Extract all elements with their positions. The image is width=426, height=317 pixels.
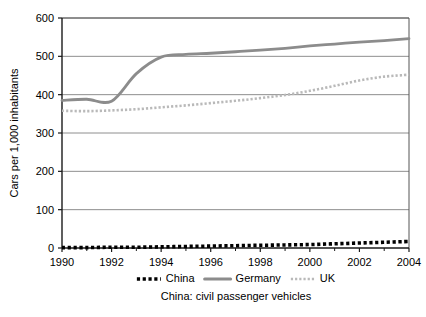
legend-label-germany: Germany xyxy=(236,272,282,284)
y-tick-label-100: 100 xyxy=(36,204,54,216)
legend-label-uk: UK xyxy=(320,272,336,284)
x-tick-label-1998: 1998 xyxy=(248,256,272,268)
y-tick-label-400: 400 xyxy=(36,89,54,101)
y-tick-label-500: 500 xyxy=(36,50,54,62)
y-tick-label-200: 200 xyxy=(36,165,54,177)
chart-background xyxy=(0,0,426,317)
chart-container: 0100200300400500600 19901992199419961998… xyxy=(0,0,426,317)
x-tick-label-2002: 2002 xyxy=(347,256,371,268)
line-chart: 0100200300400500600 19901992199419961998… xyxy=(0,0,426,317)
y-tick-label-600: 600 xyxy=(36,12,54,24)
legend-label-china: China xyxy=(166,272,196,284)
y-tick-label-0: 0 xyxy=(48,242,54,254)
y-axis-title-text: Cars per 1,000 inhabitants xyxy=(8,68,20,198)
x-tick-label-1994: 1994 xyxy=(149,256,173,268)
x-tick-label-2004: 2004 xyxy=(397,256,421,268)
chart-caption: China: civil passenger vehicles xyxy=(161,290,312,302)
x-tick-label-2000: 2000 xyxy=(298,256,322,268)
x-tick-label-1990: 1990 xyxy=(50,256,74,268)
y-tick-label-300: 300 xyxy=(36,127,54,139)
x-tick-label-1992: 1992 xyxy=(99,256,123,268)
y-axis-title: Cars per 1,000 inhabitants xyxy=(8,68,20,198)
x-tick-label-1996: 1996 xyxy=(198,256,222,268)
